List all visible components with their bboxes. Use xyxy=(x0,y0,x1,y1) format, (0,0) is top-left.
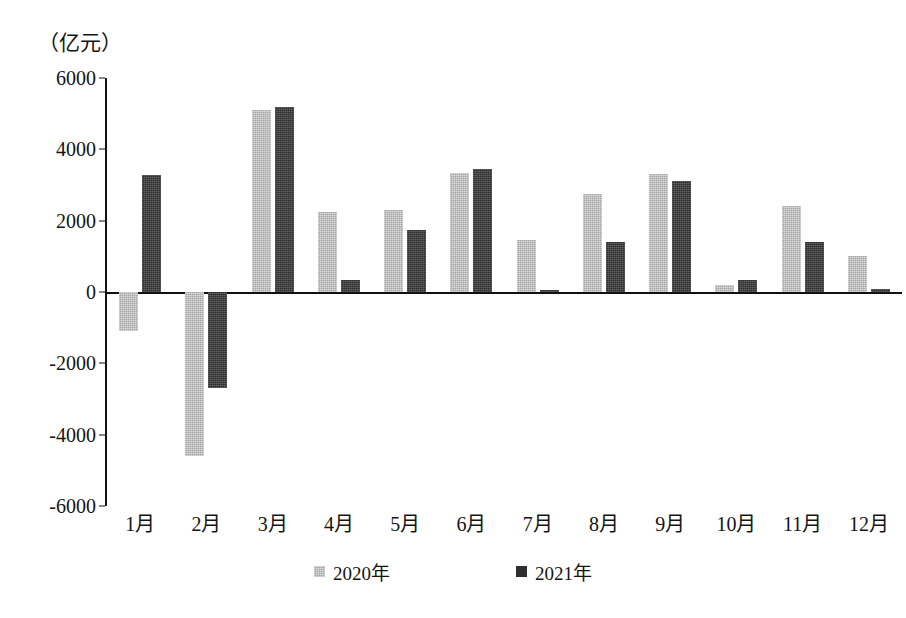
bar-group xyxy=(306,78,372,506)
bar-2020 xyxy=(384,210,403,292)
bar-2021 xyxy=(142,175,161,292)
bar-2020 xyxy=(450,173,469,292)
bar-2020 xyxy=(119,292,138,331)
bar-group xyxy=(107,78,173,506)
bar-2020 xyxy=(185,292,204,456)
x-axis-labels: 1月2月3月4月5月6月7月8月9月10月11月12月 xyxy=(107,508,902,537)
plot-area: 6000400020000-2000-4000-6000 xyxy=(105,78,902,506)
bar-2020 xyxy=(782,206,801,292)
bar-group xyxy=(505,78,571,506)
bar-group xyxy=(438,78,504,506)
bar-chart: （亿元） 6000400020000-2000-4000-6000 1月2月3月… xyxy=(0,0,906,618)
y-tick-mark xyxy=(99,434,105,435)
bar-2021 xyxy=(540,290,559,292)
y-tick-label: 4000 xyxy=(56,138,96,161)
y-axis-unit-title: （亿元） xyxy=(38,26,122,56)
chart-legend: 2020年2021年 xyxy=(0,558,906,585)
y-tick-label: -6000 xyxy=(49,495,96,518)
bar-2020 xyxy=(583,194,602,292)
x-tick-label: 12月 xyxy=(836,508,902,537)
legend-item[interactable]: 2020年 xyxy=(314,558,390,585)
bar-2021 xyxy=(275,107,294,292)
dark-square-icon xyxy=(516,566,527,577)
bar-2020 xyxy=(649,174,668,292)
x-tick-label: 7月 xyxy=(505,508,571,537)
y-tick-mark xyxy=(99,506,105,507)
x-tick-label: 8月 xyxy=(571,508,637,537)
bar-group xyxy=(770,78,836,506)
y-tick-label: -4000 xyxy=(49,423,96,446)
y-tick-mark xyxy=(99,220,105,221)
bar-2021 xyxy=(473,169,492,292)
bar-2021 xyxy=(738,280,757,292)
y-tick-label: 6000 xyxy=(56,67,96,90)
x-tick-label: 11月 xyxy=(770,508,836,537)
bar-group xyxy=(173,78,239,506)
x-tick-label: 6月 xyxy=(438,508,504,537)
legend-item[interactable]: 2021年 xyxy=(516,558,592,585)
bar-groups xyxy=(107,78,902,506)
bar-2020 xyxy=(715,285,734,292)
x-tick-label: 1月 xyxy=(107,508,173,537)
y-tick-mark xyxy=(99,78,105,79)
gray-square-icon xyxy=(314,566,325,577)
bar-2020 xyxy=(318,212,337,292)
x-tick-label: 4月 xyxy=(306,508,372,537)
bar-2020 xyxy=(848,256,867,292)
x-tick-label: 10月 xyxy=(703,508,769,537)
x-tick-label: 3月 xyxy=(240,508,306,537)
bar-2021 xyxy=(606,242,625,292)
bar-2020 xyxy=(252,110,271,292)
bar-group xyxy=(240,78,306,506)
bar-group xyxy=(637,78,703,506)
legend-label: 2020年 xyxy=(333,558,390,585)
y-tick-label: -2000 xyxy=(49,352,96,375)
bar-group xyxy=(836,78,902,506)
bar-2021 xyxy=(341,280,360,292)
bar-2021 xyxy=(672,181,691,292)
y-tick-mark xyxy=(99,149,105,150)
bar-group xyxy=(571,78,637,506)
bar-2021 xyxy=(208,292,227,388)
bar-2020 xyxy=(517,240,536,292)
y-tick-label: 2000 xyxy=(56,209,96,232)
bar-group xyxy=(372,78,438,506)
y-tick-mark xyxy=(99,363,105,364)
y-tick-mark xyxy=(99,292,105,293)
x-tick-label: 9月 xyxy=(637,508,703,537)
y-tick-label: 0 xyxy=(86,281,96,304)
legend-label: 2021年 xyxy=(535,558,592,585)
x-tick-label: 5月 xyxy=(372,508,438,537)
x-tick-label: 2月 xyxy=(173,508,239,537)
bar-2021 xyxy=(407,230,426,292)
bar-2021 xyxy=(805,242,824,292)
bar-group xyxy=(703,78,769,506)
bar-2021 xyxy=(871,289,890,292)
